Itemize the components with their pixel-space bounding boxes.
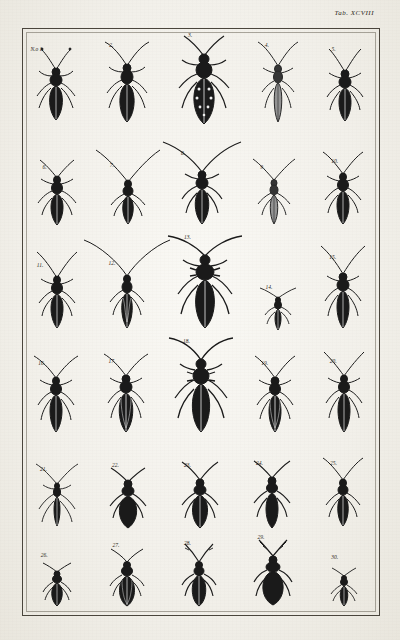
figure-row-3: 11.	[22, 228, 378, 334]
figure-row-2: 6.	[22, 138, 378, 228]
beetle-figure-28: 28.	[176, 538, 222, 610]
beetle-figure-21: 21.	[34, 448, 80, 532]
beetle-figure-20: 20.	[320, 342, 368, 438]
beetle-figure-7: 7.	[102, 148, 154, 228]
beetle-figure-2: 2.	[101, 38, 153, 128]
beetle-figure-15: 15.	[319, 236, 367, 334]
figure-row-1: N.o 1.	[22, 36, 378, 128]
engraved-plate: Tab. XCVIII N.o 1.	[0, 0, 400, 640]
beetle-figure-11: 11.	[33, 238, 81, 334]
beetle-figure-13: 13.	[174, 230, 236, 334]
beetle-figure-26: 26.	[35, 544, 79, 610]
beetle-figure-12: 12.	[102, 238, 152, 334]
beetle-figure-30: 30.	[323, 546, 365, 610]
beetle-figure-22: 22.	[104, 444, 152, 532]
beetle-figure-8: 8.	[175, 142, 229, 228]
beetle-figure-24: 24.	[248, 444, 296, 532]
beetle-figure-17: 17.	[101, 340, 151, 438]
beetle-figure-4: 4.	[255, 38, 301, 128]
beetle-figure-14: 14.	[258, 254, 298, 334]
plate-number-label: Tab. XCVIII	[335, 9, 374, 17]
figure-row-4: 16.	[22, 334, 378, 438]
figure-row-6: 26. 27.	[22, 536, 378, 610]
beetle-figure-6: 6.	[33, 146, 81, 228]
beetle-figure-27: 27.	[104, 538, 150, 610]
beetle-figure-16: 16.	[32, 342, 80, 438]
beetle-figure-19: 19.	[251, 342, 299, 438]
beetle-figure-29: 29.	[248, 534, 298, 610]
beetle-figure-5: 5.	[322, 40, 368, 128]
beetle-figure-25: 25.	[320, 446, 366, 532]
figure-grid: N.o 1.	[22, 28, 378, 614]
figure-row-5: 21.	[22, 440, 378, 532]
beetle-figure-18: 18.	[171, 336, 231, 438]
beetle-figure-9: 9.	[250, 148, 298, 228]
beetle-figure-23: 23.	[176, 444, 224, 532]
beetle-figure-10: 10.	[319, 144, 367, 228]
beetle-figure-3: 3.	[174, 34, 234, 128]
beetle-figure-1: N.o 1.	[32, 40, 80, 128]
